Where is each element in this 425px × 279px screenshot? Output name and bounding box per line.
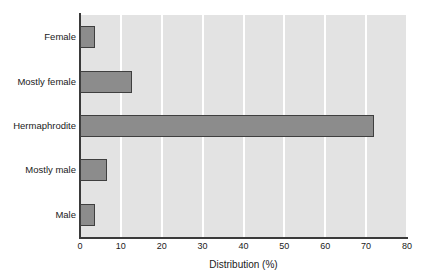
- x-tick-label-30: 30: [188, 241, 218, 251]
- x-tick-label-50: 50: [269, 241, 299, 251]
- x-tick-label-80: 80: [392, 241, 422, 251]
- category-label-mostly-male: Mostly male: [0, 164, 76, 175]
- x-tick-label-10: 10: [106, 241, 136, 251]
- bar-female: [80, 26, 95, 48]
- bar-row: [80, 104, 407, 148]
- category-label-male: Male: [0, 209, 76, 220]
- x-tick-label-40: 40: [229, 241, 259, 251]
- category-label-mostly-female: Mostly female: [0, 76, 76, 87]
- category-label-hermaphrodite: Hermaphrodite: [0, 120, 76, 131]
- x-tick-label-60: 60: [310, 241, 340, 251]
- bar-hermaphrodite: [80, 115, 374, 137]
- bar-male: [80, 204, 95, 226]
- x-tick-label-70: 70: [351, 241, 381, 251]
- x-axis-line: [79, 237, 408, 239]
- bar-row: [80, 15, 407, 59]
- x-axis-title: Distribution (%): [80, 259, 407, 270]
- x-tick-label-20: 20: [147, 241, 177, 251]
- category-label-female: Female: [0, 31, 76, 42]
- x-tick-label-0: 0: [65, 241, 95, 251]
- bar-chart-figure: FemaleMostly femaleHermaphroditeMostly m…: [0, 0, 425, 279]
- bar-mostly-female: [80, 71, 132, 93]
- bar-row: [80, 148, 407, 192]
- bar-mostly-male: [80, 159, 107, 181]
- bar-row: [80, 193, 407, 237]
- bar-row: [80, 59, 407, 103]
